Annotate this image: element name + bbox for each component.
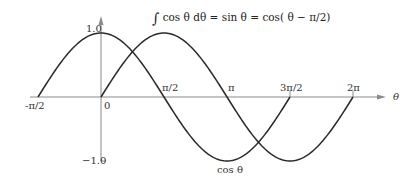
y-min-label: −1.0 — [82, 156, 106, 166]
x-label-three-half-pi: 3π/2 — [280, 83, 303, 93]
integral-symbol: ∫ — [152, 10, 159, 26]
formula-text: cos θ dθ = sin θ = cos( θ − π/2) — [163, 11, 331, 23]
x-axis-theta-label: θ — [393, 92, 399, 102]
x-label-half-pi: π/2 — [162, 83, 178, 93]
y-max-label: 1.0 — [86, 24, 102, 34]
x-label-pi: π — [228, 83, 235, 93]
x-axis-arrow-icon — [377, 95, 386, 100]
formula-label: ∫ cos θ dθ = sin θ = cos( θ − π/2) — [152, 11, 330, 25]
x-label-zero: 0 — [104, 101, 110, 111]
cos-curve-label: cos θ — [217, 165, 243, 175]
x-label-neg-half-pi: -π/2 — [25, 101, 45, 111]
x-label-two-pi: 2π — [347, 83, 360, 93]
